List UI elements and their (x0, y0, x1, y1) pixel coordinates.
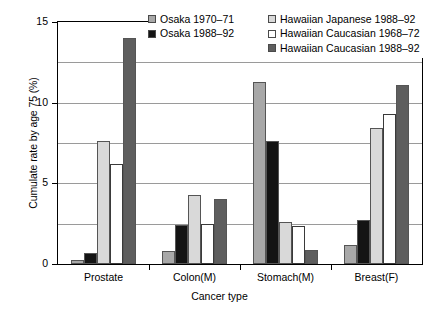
x-axis-category-label: Stomach(M) (257, 271, 314, 283)
bar (357, 220, 370, 264)
bar (396, 85, 409, 264)
bar (383, 114, 396, 264)
x-axis-category-label: Breast(F) (355, 271, 399, 283)
bar (305, 250, 318, 264)
bar (214, 199, 227, 264)
bar (279, 222, 292, 264)
bar (253, 82, 266, 264)
chart-legend: Osaka 1970–71Hawaiian Japanese 1988–92Os… (148, 12, 423, 58)
bar (344, 245, 357, 264)
x-axis-title: Cancer type (0, 290, 439, 302)
x-axis-category-label: Colon(M) (173, 271, 216, 283)
bar (162, 251, 175, 264)
bar-chart: Cumulate rate by age 75 (%) 051015 Prost… (0, 0, 439, 313)
bar (84, 253, 97, 264)
legend-label: Osaka 1970–71 (160, 14, 234, 25)
legend-swatch-icon (148, 15, 156, 23)
bars-layer (58, 22, 422, 264)
legend-item: Hawaiian Caucasian 1988–92 (268, 41, 423, 56)
legend-label: Osaka 1988–92 (160, 28, 234, 39)
bar (175, 225, 188, 264)
legend-swatch-icon (268, 15, 276, 23)
y-axis-tick-label: 5 (0, 177, 48, 187)
legend-label: Hawaiian Caucasian 1968–72 (280, 28, 420, 39)
bar (97, 141, 110, 264)
x-axis-tick (240, 265, 241, 270)
y-axis-tick-label: 10 (0, 97, 48, 107)
bar (266, 141, 279, 264)
x-axis-tick (331, 265, 332, 270)
bar (110, 164, 123, 264)
bar (71, 260, 84, 264)
legend-swatch-icon (268, 44, 276, 52)
legend-label: Hawaiian Caucasian 1988–92 (280, 43, 420, 54)
legend-item: Hawaiian Caucasian 1968–72 (268, 27, 423, 42)
x-axis-tick (149, 265, 150, 270)
bar (201, 224, 214, 264)
bar (292, 226, 305, 264)
y-axis-title: Cumulate rate by age 75 (%) (27, 18, 39, 268)
bar (370, 128, 383, 264)
legend-item: Osaka 1970–71 (148, 12, 268, 27)
bar (123, 38, 136, 264)
legend-label: Hawaiian Japanese 1988–92 (280, 14, 415, 25)
legend-swatch-icon (148, 30, 156, 38)
bar (188, 195, 201, 264)
y-axis-tick-label: 15 (0, 16, 48, 26)
legend-item: Hawaiian Japanese 1988–92 (268, 12, 423, 27)
y-axis-tick-label: 0 (0, 258, 48, 268)
x-axis-category-label: Prostate (84, 271, 123, 283)
legend-spacer (148, 41, 268, 56)
legend-swatch-icon (268, 30, 276, 38)
legend-item: Osaka 1988–92 (148, 27, 268, 42)
